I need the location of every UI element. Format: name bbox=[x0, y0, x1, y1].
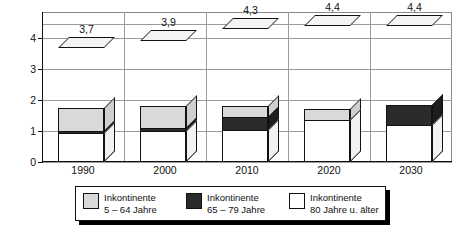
y-tick-label-1: 1 bbox=[30, 126, 36, 137]
bar-1990[interactable] bbox=[58, 48, 104, 162]
bar-value-label-1990: 3,7 bbox=[52, 24, 121, 35]
bar-2030[interactable] bbox=[386, 26, 432, 162]
plot-area: 01234 bbox=[42, 12, 452, 162]
x-tick-label-1990: 1990 bbox=[42, 165, 124, 176]
legend-label-line2: 5 – 64 Jahre bbox=[104, 204, 157, 216]
bar-segment-2000-high[interactable] bbox=[140, 131, 186, 162]
x-tick-label-2010: 2010 bbox=[206, 165, 288, 176]
bar-segment-1990-high[interactable] bbox=[58, 133, 104, 162]
y-tick-1 bbox=[38, 131, 43, 132]
y-tick-label-0: 0 bbox=[30, 157, 36, 168]
legend-label-line2: 65 – 79 Jahre bbox=[207, 204, 265, 216]
legend-item-2[interactable]: Inkontinente65 – 79 Jahre bbox=[179, 192, 282, 215]
bar-segment-2010-high[interactable] bbox=[222, 130, 268, 162]
legend-swatch-white bbox=[289, 193, 305, 209]
y-tick-label-4: 4 bbox=[30, 33, 36, 44]
legend-item-1[interactable]: Inkontinente5 – 64 Jahre bbox=[76, 192, 179, 215]
legend-swatch-dark bbox=[186, 193, 202, 209]
legend-label-1: Inkontinente5 – 64 Jahre bbox=[104, 192, 157, 215]
bar-value-label-2030: 4,4 bbox=[380, 2, 449, 13]
y-tick-label-2: 2 bbox=[30, 95, 36, 106]
bar-segment-2030-high[interactable] bbox=[386, 125, 432, 162]
chart-legend: Inkontinente5 – 64 JahreInkontinente65 –… bbox=[75, 186, 386, 221]
y-tick-0 bbox=[38, 162, 43, 163]
legend-label-line1: Inkontinente bbox=[207, 192, 259, 203]
bar-value-label-2020: 4,4 bbox=[298, 2, 367, 13]
x-tick-label-2030: 2030 bbox=[370, 165, 452, 176]
legend-label-line2: 80 Jahre u. älter bbox=[310, 204, 379, 216]
gridline-x-4 bbox=[370, 12, 371, 162]
y-tick-2 bbox=[38, 100, 43, 101]
chart-figure: in Millionen 01234 19902000201020202030 … bbox=[0, 0, 465, 233]
legend-label-2: Inkontinente65 – 79 Jahre bbox=[207, 192, 265, 215]
gridline-x-3 bbox=[288, 12, 289, 162]
bar-value-label-2010: 4,3 bbox=[216, 5, 285, 16]
x-tick-label-2020: 2020 bbox=[288, 165, 370, 176]
bar-segment-2020-high[interactable] bbox=[304, 120, 350, 162]
y-tick-4 bbox=[38, 38, 43, 39]
bar-value-label-2000: 3,9 bbox=[134, 17, 203, 28]
bar-2010[interactable] bbox=[222, 29, 268, 162]
legend-label-line1: Inkontinente bbox=[310, 192, 362, 203]
legend-swatch-light-gray bbox=[83, 193, 99, 209]
y-axis: 01234 bbox=[42, 12, 43, 162]
legend-label-line1: Inkontinente bbox=[104, 192, 156, 203]
gridline-x-2 bbox=[206, 12, 207, 162]
gridline-x-1 bbox=[124, 12, 125, 162]
legend-item-3[interactable]: Inkontinente80 Jahre u. älter bbox=[282, 192, 385, 215]
bar-2000[interactable] bbox=[140, 41, 186, 162]
x-tick-label-2000: 2000 bbox=[124, 165, 206, 176]
bar-2020[interactable] bbox=[304, 26, 350, 162]
y-tick-3 bbox=[38, 69, 43, 70]
legend-label-3: Inkontinente80 Jahre u. älter bbox=[310, 192, 379, 215]
y-axis-title: in Millionen bbox=[10, 0, 24, 34]
y-tick-label-3: 3 bbox=[30, 64, 36, 75]
